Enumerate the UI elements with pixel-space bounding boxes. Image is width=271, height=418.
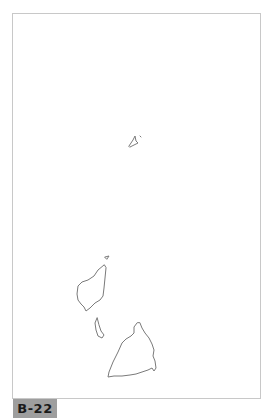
islet-dot-center (140, 136, 141, 137)
island-small-center (129, 136, 138, 147)
island-bottom-large (108, 323, 156, 377)
outline-map (0, 0, 271, 418)
islet-top-left (105, 256, 109, 259)
island-small-left (95, 318, 104, 338)
figure-label: B-22 (13, 399, 57, 418)
island-left-large (77, 265, 106, 311)
